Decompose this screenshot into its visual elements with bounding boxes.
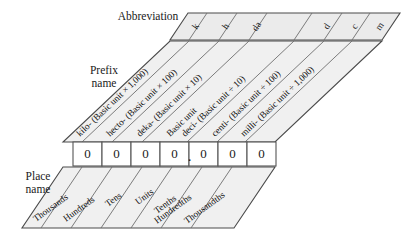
place-band: Thousands Hundreds Tens Units Tenths Hun… [22,167,275,228]
prefix-name-label-line2: name [92,77,117,89]
abbreviation-band: k h da d c m [170,13,400,40]
digit-value-6: 0 [258,146,265,161]
prefix-band: kilo- (Basic unit × 1,000) hecto- (Basic… [63,41,382,142]
digit-value-5: 0 [229,146,236,161]
digit-value-2: 0 [142,146,149,161]
place-name-label-line2: name [26,183,51,195]
digit-value-4: 0 [200,146,207,161]
place-name-label-line1: Place [26,170,51,182]
decimal-point: . [188,148,192,164]
digit-value-3: 0 [171,146,178,161]
prefix-name-label-line1: Prefix [90,64,118,76]
digit-value-0: 0 [84,146,91,161]
place-value-chart-svg: k h da d c m Abbreviation kilo- (Basic u… [0,0,406,233]
abbreviation-label: Abbreviation [118,10,179,22]
digit-value-1: 0 [113,146,120,161]
digit-row: 0 0 0 0 0 0 0 . [73,142,276,166]
place-value-diagram: k h da d c m Abbreviation kilo- (Basic u… [0,0,406,233]
